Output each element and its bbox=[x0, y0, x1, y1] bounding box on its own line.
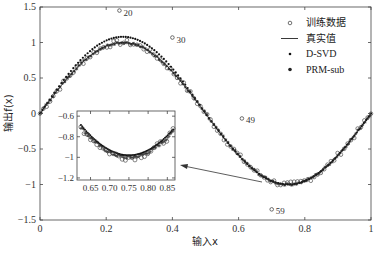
prm-sub-point bbox=[238, 155, 241, 158]
prm-sub-point bbox=[222, 134, 225, 137]
prm-sub-point bbox=[56, 88, 59, 91]
prm-sub-point bbox=[144, 47, 147, 50]
prm-sub-point bbox=[215, 126, 218, 129]
prm-sub-point bbox=[92, 52, 95, 55]
inset-x-tick-label: 0.80 bbox=[140, 183, 156, 193]
prm-sub-point bbox=[345, 145, 348, 148]
prm-sub-point bbox=[89, 55, 92, 58]
prm-sub-point bbox=[170, 69, 173, 72]
dsvd-point bbox=[141, 41, 143, 43]
prm-sub-point bbox=[241, 158, 244, 161]
dsvd-point bbox=[75, 64, 77, 66]
prm-sub-point bbox=[359, 127, 362, 130]
prm-sub-point bbox=[42, 107, 45, 110]
dsvd-point bbox=[103, 40, 105, 42]
prm-sub-point bbox=[184, 86, 187, 89]
dsvd-point bbox=[167, 63, 169, 65]
prm-sub-point bbox=[356, 128, 359, 131]
dsvd-point bbox=[79, 59, 81, 61]
dsvd-point bbox=[163, 58, 165, 60]
prm-sub-point bbox=[300, 181, 303, 184]
prm-sub-point bbox=[113, 43, 116, 46]
prm-sub-point bbox=[132, 42, 135, 45]
y-tick-label: −1 bbox=[25, 179, 36, 190]
dsvd-point bbox=[134, 38, 136, 40]
prm-sub-point bbox=[196, 100, 199, 103]
prm-sub-point bbox=[210, 120, 213, 123]
prm-sub-point bbox=[229, 144, 232, 147]
prm-sub-point bbox=[182, 83, 185, 86]
y-tick-label: −1.5 bbox=[18, 214, 36, 225]
y-tick-label: 1.5 bbox=[24, 1, 37, 12]
prm-sub-point bbox=[340, 150, 343, 153]
prm-sub-point bbox=[234, 149, 237, 152]
prm-sub-point bbox=[361, 123, 364, 126]
dsvd-point bbox=[129, 37, 131, 39]
prm-sub-point bbox=[335, 156, 338, 159]
outlier-label: 59 bbox=[276, 206, 286, 216]
prm-sub-point bbox=[47, 101, 50, 104]
y-axis-title: 输出f(x) bbox=[2, 94, 14, 131]
prm-sub-point bbox=[364, 121, 367, 124]
dsvd-point bbox=[148, 45, 150, 47]
prm-sub-point bbox=[94, 50, 97, 53]
y-tick-label: 0.5 bbox=[24, 72, 37, 83]
prm-sub-point bbox=[352, 136, 355, 139]
dsvd-point bbox=[170, 66, 172, 68]
prm-sub-point bbox=[85, 58, 88, 61]
dsvd-point bbox=[70, 70, 72, 72]
prm-sub-point bbox=[198, 104, 201, 107]
dsvd-point bbox=[120, 36, 122, 38]
y-tick-label: −0.5 bbox=[18, 143, 36, 154]
prm-sub-point bbox=[191, 94, 194, 97]
legend-circle-icon bbox=[288, 21, 292, 25]
outlier-label: 20 bbox=[123, 8, 133, 18]
prm-sub-point bbox=[208, 117, 211, 120]
prm-sub-point bbox=[44, 103, 47, 106]
x-tick-label: 0.2 bbox=[100, 223, 113, 234]
prm-sub-point bbox=[75, 68, 78, 71]
outlier-label: 30 bbox=[176, 35, 186, 45]
inset-y-tick-label: −1 bbox=[64, 152, 74, 162]
inset-y-tick-label: −0.8 bbox=[58, 132, 75, 142]
dsvd-point bbox=[127, 36, 129, 38]
dsvd-point bbox=[132, 37, 134, 39]
dsvd-point bbox=[101, 42, 103, 44]
dsvd-point bbox=[158, 53, 160, 55]
prm-sub-point bbox=[70, 73, 73, 76]
dsvd-point bbox=[84, 54, 86, 56]
dsvd-point bbox=[106, 39, 108, 41]
dsvd-point bbox=[67, 73, 69, 75]
prm-sub-point bbox=[245, 162, 248, 165]
prm-sub-point bbox=[236, 152, 239, 155]
dsvd-point bbox=[94, 46, 96, 48]
dsvd-point bbox=[153, 49, 155, 51]
dsvd-point bbox=[144, 42, 146, 44]
inset-x-tick-label: 0.85 bbox=[159, 183, 175, 193]
prm-sub-point bbox=[248, 164, 251, 167]
prm-sub-point bbox=[267, 178, 270, 181]
prm-sub-point bbox=[49, 99, 52, 102]
dsvd-point bbox=[156, 51, 158, 53]
prm-sub-point bbox=[304, 179, 307, 182]
outlier-point bbox=[118, 9, 122, 13]
prm-sub-point bbox=[78, 64, 81, 67]
prm-sub-point bbox=[328, 163, 331, 166]
prm-sub-point bbox=[319, 171, 322, 174]
dsvd-point bbox=[146, 44, 148, 46]
prm-sub-point bbox=[148, 51, 151, 54]
prm-sub-point bbox=[61, 82, 64, 85]
outlier-point bbox=[270, 208, 274, 212]
x-tick-label: 0 bbox=[38, 223, 43, 234]
prm-sub-point bbox=[96, 50, 99, 53]
prm-sub-point bbox=[104, 45, 107, 48]
prm-sub-point bbox=[120, 41, 123, 44]
prm-sub-point bbox=[63, 80, 66, 83]
dsvd-point bbox=[98, 43, 100, 45]
dsvd-point bbox=[182, 80, 184, 82]
prm-sub-point bbox=[338, 153, 341, 156]
dsvd-point bbox=[117, 36, 119, 38]
prm-sub-point bbox=[366, 117, 369, 120]
training-point bbox=[125, 38, 129, 42]
y-tick-label: 1 bbox=[31, 37, 36, 48]
